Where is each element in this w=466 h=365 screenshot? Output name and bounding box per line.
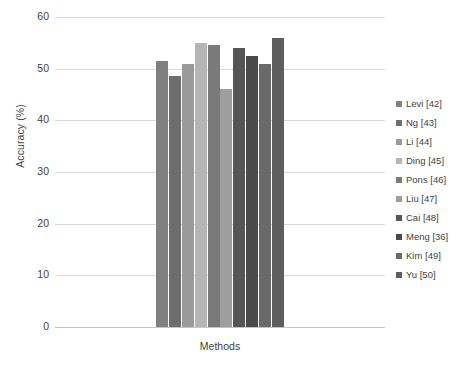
legend-item[interactable]: Levi [42] (396, 94, 466, 113)
legend-item[interactable]: Pons [46] (396, 170, 466, 189)
legend-swatch-icon (396, 272, 402, 278)
bar (233, 48, 245, 327)
y-tick-label-60: 60 (25, 11, 49, 22)
y-tick-label-20: 20 (25, 218, 49, 229)
bar (259, 64, 271, 328)
y-tick-label-30: 30 (25, 166, 49, 177)
y-tick-label-40: 40 (25, 114, 49, 125)
legend-item-label: Yu [50] (406, 270, 436, 280)
x-axis-title: Methods (55, 340, 385, 352)
legend-item-label: Kim [49] (406, 251, 441, 261)
legend-item[interactable]: Ding [45] (396, 151, 466, 170)
y-tick-label-10: 10 (25, 269, 49, 280)
legend-item[interactable]: Li [44] (396, 132, 466, 151)
legend-swatch-icon (396, 215, 402, 221)
bar (208, 45, 220, 327)
bar (156, 61, 168, 327)
bars-layer (55, 17, 385, 327)
legend-item-label: Levi [42] (406, 99, 442, 109)
legend-item[interactable]: Ng [43] (396, 113, 466, 132)
bar-chart: Accuracy (%) 6050403020100 Methods Levi … (0, 0, 466, 365)
bar (169, 76, 181, 327)
gridline-0 (55, 327, 385, 328)
legend-swatch-icon (396, 158, 402, 164)
legend-item[interactable]: Liu [47] (396, 189, 466, 208)
y-axis-ticks: 6050403020100 (23, 0, 49, 365)
legend-swatch-icon (396, 196, 402, 202)
legend-item-label: Li [44] (406, 137, 432, 147)
bar (195, 43, 207, 327)
legend-item-label: Pons [46] (406, 175, 446, 185)
legend-item[interactable]: Kim [49] (396, 246, 466, 265)
legend-item-label: Meng [36] (406, 232, 448, 242)
plot-area (55, 17, 385, 327)
bar (272, 38, 284, 327)
legend-swatch-icon (396, 253, 402, 259)
legend-item[interactable]: Meng [36] (396, 227, 466, 246)
legend-item[interactable]: Yu [50] (396, 265, 466, 284)
legend-item-label: Liu [47] (406, 194, 437, 204)
bar (246, 56, 258, 327)
legend-item[interactable]: Cai [48] (396, 208, 466, 227)
legend-swatch-icon (396, 139, 402, 145)
legend-swatch-icon (396, 101, 402, 107)
y-tick-label-50: 50 (25, 63, 49, 74)
bar (220, 89, 232, 327)
legend-item-label: Ding [45] (406, 156, 444, 166)
bar (182, 64, 194, 328)
legend-item-label: Cai [48] (406, 213, 439, 223)
legend-swatch-icon (396, 120, 402, 126)
legend-item-label: Ng [43] (406, 118, 437, 128)
legend-swatch-icon (396, 177, 402, 183)
legend-swatch-icon (396, 234, 402, 240)
y-tick-label-0: 0 (25, 321, 49, 332)
legend: Levi [42]Ng [43]Li [44]Ding [45]Pons [46… (396, 94, 466, 284)
